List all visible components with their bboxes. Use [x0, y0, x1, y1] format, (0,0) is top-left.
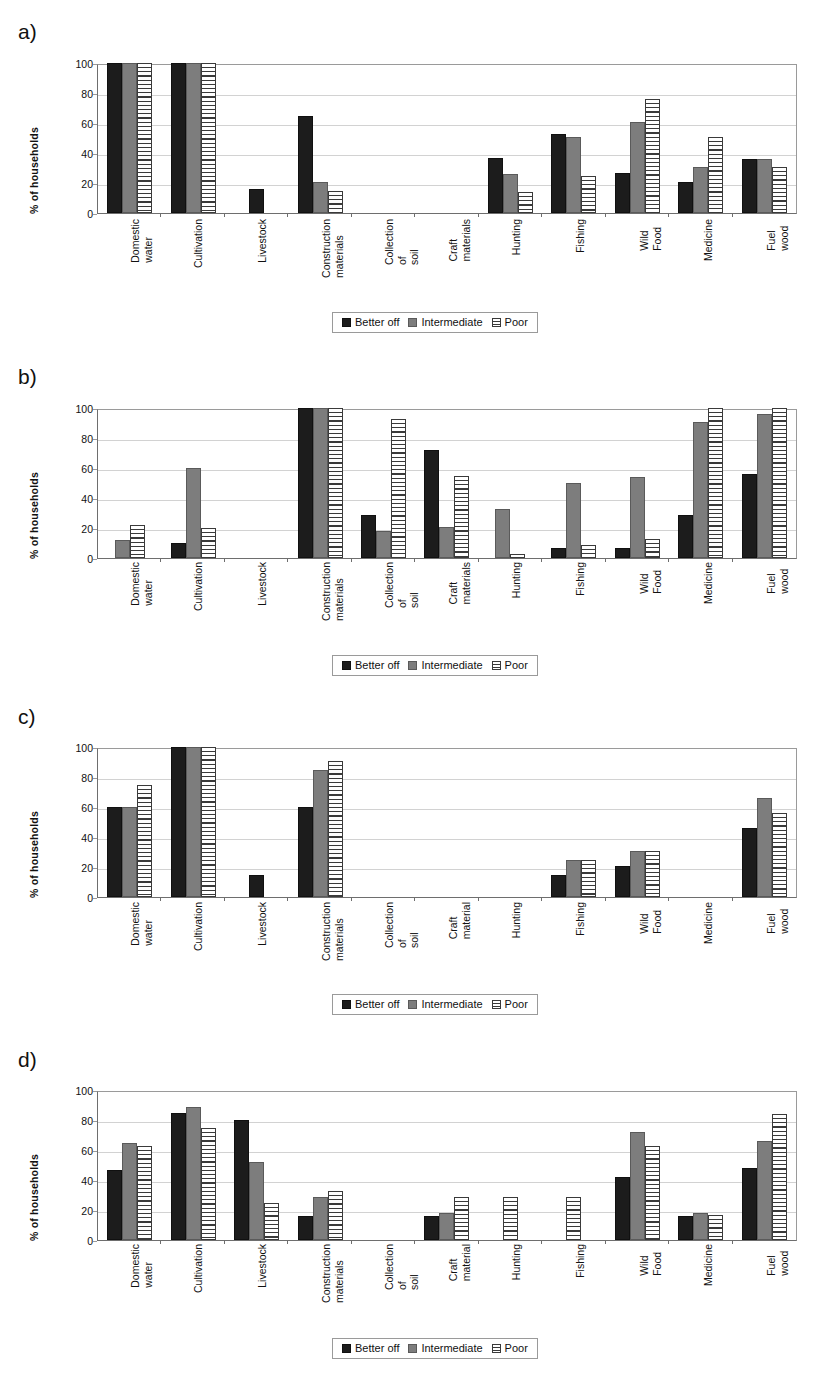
bar-poor [645, 99, 660, 213]
bar-better [107, 1170, 122, 1241]
bar-better [171, 63, 186, 213]
x-tick-mark [160, 897, 161, 901]
bar-poor [566, 1197, 581, 1241]
x-tick-mark [668, 213, 669, 217]
bar-inter [186, 63, 201, 213]
bar-group [352, 410, 415, 558]
x-axis-label: Fuel wood [733, 562, 797, 652]
bar-poor [645, 851, 660, 898]
x-axis-label: Cultivation [161, 562, 225, 652]
bar-group [98, 749, 161, 897]
legend-item-poor: Poor [492, 316, 528, 328]
x-axis-label: Fuel wood [733, 219, 797, 309]
x-axis-label: Fishing [542, 219, 606, 309]
y-tick-label: 80 [81, 1116, 93, 1127]
bar-inter [757, 1141, 772, 1240]
bar-inter [757, 159, 772, 213]
panel-letter-c: c) [18, 705, 36, 729]
x-axis-label-text: Hunting [511, 562, 524, 598]
x-axis-label-text: Craft materials [447, 562, 472, 605]
bar-better [249, 189, 264, 213]
x-axis-label: Craft material [415, 1244, 479, 1334]
x-axis-label-text: Medicine [702, 1244, 715, 1286]
legend-item-better: Better off [342, 659, 399, 671]
bar-better [107, 63, 122, 213]
x-tick-mark [287, 213, 288, 217]
bar-group [288, 749, 351, 897]
bar-inter [693, 1213, 708, 1240]
legend-label: Better off [355, 998, 399, 1010]
x-axis-label: Medicine [670, 562, 734, 652]
x-axis-label: Construction materials [288, 1244, 352, 1334]
bar-inter [313, 182, 328, 214]
bar-group [98, 410, 161, 558]
bar-poor [708, 408, 723, 558]
bar-better [171, 543, 186, 558]
bar-group [225, 65, 288, 213]
y-tick-label: 60 [81, 119, 93, 130]
bar-groups [98, 1092, 796, 1240]
bar-inter [757, 414, 772, 558]
plot-area-b [97, 409, 797, 559]
y-tick-mark [93, 214, 97, 215]
bar-poor [328, 408, 343, 558]
bar-inter [186, 747, 201, 897]
legend-label: Poor [505, 998, 528, 1010]
x-axis-label-text: Craft material [447, 1244, 472, 1281]
x-axis-label: Construction materials [288, 219, 352, 309]
x-axis-label-text: Fuel wood [765, 219, 790, 251]
y-tick-label: 20 [81, 179, 93, 190]
x-axis-label-text: Wild Food [638, 902, 663, 934]
x-tick-mark [541, 897, 542, 901]
bar-group [479, 65, 542, 213]
bar-group [542, 1092, 605, 1240]
bar-group [352, 65, 415, 213]
y-tick-label: 100 [75, 59, 93, 70]
bar-inter [115, 540, 130, 558]
bar-better [551, 134, 566, 214]
bar-poor [503, 1197, 518, 1241]
x-axis-label-text: Craft material [447, 902, 472, 939]
bar-group [98, 1092, 161, 1240]
y-axis-ticks: 020406080100 [63, 64, 93, 214]
bar-poor [201, 747, 216, 897]
bar-group [225, 410, 288, 558]
bar-better [488, 158, 503, 214]
x-axis-label: Construction materials [288, 562, 352, 652]
bar-group [225, 749, 288, 897]
x-axis-label-text: Hunting [511, 1244, 524, 1280]
x-axis-label-text: Hunting [511, 219, 524, 255]
x-axis-label-text: Fuel wood [765, 1244, 790, 1276]
bar-inter [376, 531, 391, 558]
bar-inter [566, 483, 581, 558]
bar-group [352, 749, 415, 897]
bar-better [298, 1216, 313, 1240]
x-axis-labels: Domestic waterCultivationLivestockConstr… [97, 219, 797, 309]
bar-poor [454, 1197, 469, 1241]
x-tick-mark [351, 213, 352, 217]
x-axis-label-text: Wild Food [638, 219, 663, 251]
bar-poor [581, 176, 596, 214]
y-tick-label: 40 [81, 149, 93, 160]
bar-group [733, 65, 796, 213]
bar-group [733, 749, 796, 897]
x-axis-label: Wild Food [606, 1244, 670, 1334]
x-axis-label: Fishing [542, 902, 606, 992]
x-axis-label-text: Domestic water [129, 219, 154, 263]
x-tick-mark [287, 897, 288, 901]
legend-swatch-better-icon [342, 318, 351, 327]
legend-item-better: Better off [342, 316, 399, 328]
x-axis-label: Hunting [479, 1244, 543, 1334]
x-axis-label-text: Fuel wood [765, 902, 790, 934]
x-axis-label-text: Wild Food [638, 1244, 663, 1276]
plot-area-a [97, 64, 797, 214]
bar-inter [495, 509, 510, 559]
x-axis-label-text: Fishing [574, 562, 587, 596]
bar-group [606, 410, 669, 558]
x-axis-label-text: Cultivation [192, 562, 205, 611]
bar-poor [264, 1203, 279, 1241]
legend-swatch-inter-icon [408, 1000, 417, 1009]
x-axis-label: Domestic water [97, 562, 161, 652]
bar-inter [503, 174, 518, 213]
x-axis-labels: Domestic waterCultivationLivestockConstr… [97, 562, 797, 652]
